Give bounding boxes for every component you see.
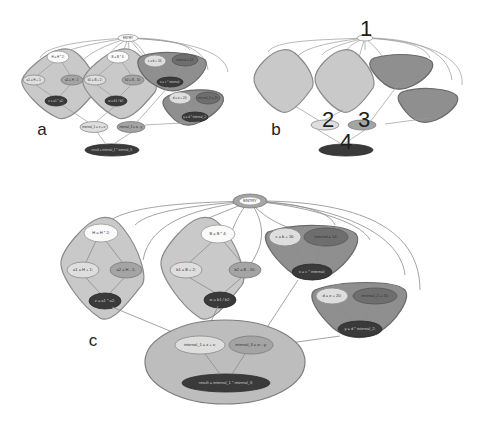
node-label: w = b1 / b2; <box>210 297 231 302</box>
node-label: x = c * internal; <box>160 80 180 84</box>
node-label: internal_3 = w - y; <box>235 342 267 347</box>
node-label: b1 = B + 2; <box>88 78 103 82</box>
node-label: a1 = H + 1; <box>27 78 42 82</box>
node-label: B = B * 4; <box>112 55 125 59</box>
node-label: b1 = B + 2; <box>176 267 196 272</box>
node-label: c = b + 16; <box>276 234 295 239</box>
panel-c-cluster-1: H = H * 2; a1 = H + 1; a2 = H - 1; z = a… <box>61 217 144 319</box>
node-label: d = e + 20; <box>173 96 188 100</box>
number-label: 1 <box>360 16 372 41</box>
node-label: internal_2 = 15; <box>361 293 389 298</box>
node-label: internal_2 = 15; <box>198 96 219 100</box>
node-label: c = b + 16; <box>148 59 162 63</box>
number-label: 4 <box>340 129 352 154</box>
node-label: internal = 14; <box>314 234 337 239</box>
node-label: B = B * 4; <box>209 231 226 236</box>
panel-label-c: c <box>89 331 98 350</box>
node-label: internal = 14; <box>176 58 194 62</box>
node-label: H = H * 2; <box>51 55 64 59</box>
panel-label-a: a <box>37 120 47 139</box>
node-label: internal_3 = w - y; <box>119 125 143 129</box>
cluster-shape <box>254 50 313 113</box>
node-label: y = d * internal_2; <box>344 326 375 331</box>
cluster-shape <box>315 50 374 113</box>
number-label: 3 <box>358 107 370 132</box>
node-label: w = b1 / b2; <box>108 99 124 103</box>
cluster-shape <box>370 55 433 90</box>
node-label: result = internal_1 * internal_3; <box>92 148 133 152</box>
node-label: b2 = B - 10; <box>235 267 256 272</box>
node-label: result = internal_1 * internal_3; <box>199 380 253 385</box>
node-label: a1 = H + 1; <box>73 267 93 272</box>
node-label: y = d * internal_2; <box>183 115 207 119</box>
node-label: z = a1 * a2; <box>95 298 115 303</box>
node-label: d = e + 20; <box>322 293 341 298</box>
panel-c: H = H * 2; a1 = H + 1; a2 = H - 1; z = a… <box>61 194 420 404</box>
panel-a-cluster-4: d = e + 20; internal_2 = 15; y = d * int… <box>163 90 224 125</box>
panel-label-b: b <box>271 120 280 139</box>
node-label: internal_1 = z + x; <box>82 125 106 129</box>
entry-label: ENTRY <box>243 198 257 203</box>
node-label: z = a1 * a2; <box>48 99 63 103</box>
panel-a: H = H * 2; a1 = H + 1; a2 = H - 1; z = a… <box>22 35 228 157</box>
node-label: b2 = B - 10; <box>125 78 141 82</box>
node-label: a2 = H - 1; <box>65 78 79 82</box>
node-label: H = H * 2; <box>92 230 109 235</box>
panel-c-cluster-4: d = e + 20; internal_2 = 15; y = d * int… <box>312 283 407 338</box>
panel-c-cluster-3: c = b + 16; internal = 14; x = c * inter… <box>265 225 357 280</box>
entry-label: ENTRY <box>123 36 133 40</box>
figure: H = H * 2; a1 = H + 1; a2 = H - 1; z = a… <box>0 0 481 422</box>
node-label: x = c * internal; <box>299 269 326 274</box>
number-label: 2 <box>322 107 334 132</box>
panel-c-cluster-2: B = B * 4; b1 = B + 2; b2 = B - 10; w = … <box>161 217 261 319</box>
node-label: internal_1 = z + x; <box>184 342 216 347</box>
cluster-shape <box>398 89 458 123</box>
node-label: a2 = H - 1; <box>117 267 136 272</box>
panel-b: 1 2 3 4 b <box>254 16 462 156</box>
